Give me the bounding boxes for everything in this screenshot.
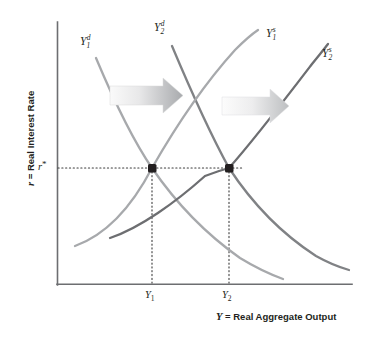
shift-arrows [110,78,289,123]
y-axis-title: r = Real Interest Rate [26,91,37,186]
supply-curve-1-label: Y1s [266,28,279,40]
equilibrium-point-1 [148,164,157,173]
curves [75,30,349,279]
supply-curve-1 [75,30,258,246]
x-axis-title: Y = Real Aggregate Output [216,312,336,323]
demand-shift-arrow [110,78,183,113]
supply-shift-arrow [222,89,289,123]
supply-curve-2 [110,44,328,238]
guide-lines [58,168,244,283]
equilibrium-point-2 [225,164,234,173]
axis-lines [57,22,352,285]
x-axis-tick-label-y2: Y2 [222,290,232,301]
economics-figure: Y1d Y2d Y1s Y2s r* Y1 Y2 r = Real Intere… [0,0,381,337]
demand-curve-2-label: Y2d [154,22,168,34]
y-axis-equilibrium-tick-label: r* [38,162,47,173]
demand-curve-2 [172,46,349,270]
supply-curve-2-label: Y2s [322,48,335,60]
demand-curve-1-label: Y1d [80,36,94,48]
x-axis-tick-label-y1: Y1 [145,290,155,301]
